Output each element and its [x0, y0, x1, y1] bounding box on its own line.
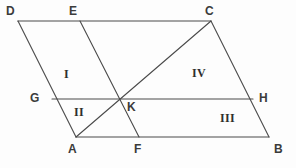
- region-label-iv: IV: [192, 67, 206, 79]
- vertex-label-k: K: [127, 101, 136, 113]
- segment-ef: [80, 21, 139, 137]
- vertex-label-d: D: [6, 5, 15, 17]
- geometry-canvas: [0, 0, 296, 168]
- vertex-label-b: B: [274, 143, 283, 155]
- vertex-label-f: F: [134, 143, 142, 155]
- vertex-label-a: A: [68, 143, 77, 155]
- segment-ac: [76, 21, 211, 137]
- vertex-label-g: G: [30, 92, 40, 104]
- region-label-ii: II: [74, 106, 84, 118]
- region-label-iii: III: [220, 112, 235, 124]
- vertex-label-e: E: [69, 5, 77, 17]
- geometry-diagram: D E C G K H A F B I II III IV: [0, 0, 296, 168]
- region-label-i: I: [64, 68, 69, 80]
- vertex-label-h: H: [259, 92, 268, 104]
- vertex-label-c: C: [205, 5, 214, 17]
